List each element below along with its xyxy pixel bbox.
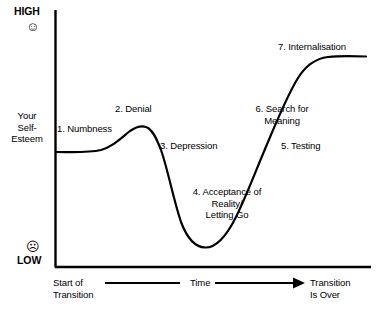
y-axis-high-label: HIGH xyxy=(14,6,40,18)
stage-label-internalisation: 7. Internalisation xyxy=(278,41,346,53)
y-axis-low-label: LOW xyxy=(17,255,41,267)
stage-label-testing: 5. Testing xyxy=(281,140,321,152)
stage-label-search-for-meaning: 6. Search for Meaning xyxy=(236,103,328,126)
stage-label-acceptance: 4. Acceptance of Reality/ Letting Go xyxy=(173,186,281,221)
x-axis-end-label: Transition Is Over xyxy=(310,277,350,300)
stage-label-numbness: 1. Numbness xyxy=(57,123,112,135)
y-axis-title: Your Self- Esteem xyxy=(2,110,52,145)
time-arrow-head xyxy=(293,278,305,289)
stage-label-denial: 2. Denial xyxy=(115,103,152,115)
x-axis-start-label: Start of Transition xyxy=(53,277,93,300)
stage-label-depression: 3. Depression xyxy=(160,140,217,152)
smiley-face-sad-icon: ☹ xyxy=(26,240,40,254)
change-curve-diagram: HIGH ☺ Your Self- Esteem ☹ LOW Start of … xyxy=(0,0,376,312)
x-axis-time-label: Time xyxy=(190,277,210,289)
smiley-face-happy-icon: ☺ xyxy=(26,20,39,34)
